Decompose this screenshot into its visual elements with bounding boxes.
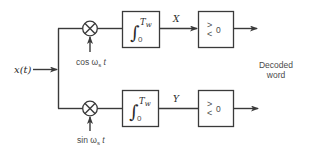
bottom-integral-lower: 0 bbox=[137, 114, 142, 123]
quadrature-detector-diagram: x(t) cos ωs t ∫ Tw 0 X > < 0 bbox=[0, 0, 309, 151]
top-comparator-lt: < bbox=[207, 29, 212, 39]
x-label: X bbox=[172, 14, 180, 24]
bottom-reference-label: sin ωs t bbox=[77, 135, 105, 146]
top-branch: cos ωs t ∫ Tw 0 X > < 0 bbox=[76, 12, 257, 69]
bottom-branch: sin ωs t ∫ Tw 0 Y > < 0 bbox=[77, 91, 258, 147]
bottom-comparator-lt: < bbox=[207, 108, 212, 118]
y-label: Y bbox=[173, 94, 180, 104]
bottom-mixer-icon bbox=[83, 101, 98, 116]
input-label: x(t) bbox=[14, 64, 32, 75]
bottom-comparator-threshold: 0 bbox=[216, 104, 221, 114]
top-mixer-icon bbox=[83, 21, 98, 36]
top-integral-lower: 0 bbox=[138, 35, 143, 44]
top-comparator-threshold: 0 bbox=[216, 25, 221, 35]
top-reference-label: cos ωs t bbox=[76, 57, 107, 68]
output-label-line2: word bbox=[266, 70, 286, 80]
output-label-line1: Decoded bbox=[259, 60, 293, 70]
